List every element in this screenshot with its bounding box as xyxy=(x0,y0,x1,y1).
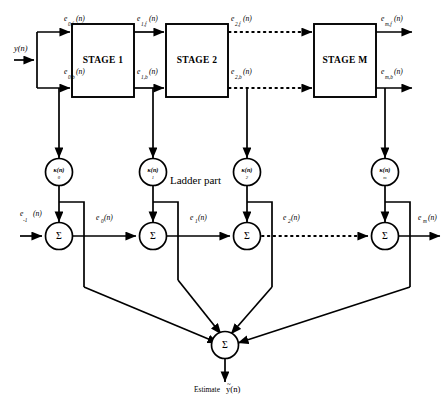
input-signal-label: y(n) xyxy=(13,44,28,53)
sum-1-glyph: Σ xyxy=(150,230,156,241)
label-e1f-arg: (n) xyxy=(149,14,158,23)
kappa-0-label: κ(n) xyxy=(54,166,65,174)
label-em1-arg: (n) xyxy=(33,209,42,218)
kappa-node-0[interactable]: κ(n) 0 xyxy=(46,159,73,186)
label-e2b-arg: (n) xyxy=(243,67,252,76)
label-em-arg: (n) xyxy=(428,213,437,222)
stage-m-box[interactable]: STAGE M xyxy=(314,24,376,97)
kappa-node-m[interactable]: κ(n) m xyxy=(372,159,399,186)
kappa-m-label: κ(n) xyxy=(380,166,391,174)
sum-0-glyph: Σ xyxy=(56,230,62,241)
stage-2-label: STAGE 2 xyxy=(177,55,218,65)
label-e2b-sub: 2,b xyxy=(235,74,242,80)
label-emb-sub: m,b xyxy=(385,74,393,80)
kappa-1-subscript: 1 xyxy=(152,175,154,180)
final-wire-from-2 xyxy=(231,287,272,334)
ladder-part-label: Ladder part xyxy=(170,174,221,186)
lattice-ladder-diagram: STAGE 1 STAGE 2 STAGE M xyxy=(0,0,448,406)
label-e2-arg: (n) xyxy=(291,213,300,222)
summer-node-0[interactable]: Σ xyxy=(46,223,73,250)
label-e0b-sub: 0,b xyxy=(68,74,75,80)
final-wire-from-0 xyxy=(84,287,218,343)
ladder-signal-labels: e (n) -1 e 0 (n) e 1 (n) e 2 (n) e m (n) xyxy=(20,209,437,224)
kappa-node-2[interactable]: κ(n) 2 xyxy=(234,159,261,186)
label-em-base: e xyxy=(418,213,422,222)
kappa-node-1[interactable]: κ(n) 1 xyxy=(140,159,167,186)
estimate-overbar: ~ xyxy=(227,380,231,388)
label-e2-base: e xyxy=(283,213,287,222)
diagram-canvas: STAGE 1 STAGE 2 STAGE M xyxy=(0,0,448,406)
label-e0-base: e xyxy=(96,213,100,222)
estimate-word: Estimate xyxy=(194,385,221,394)
summer-node-2[interactable]: Σ xyxy=(234,223,261,250)
kappa-2-label: κ(n) xyxy=(242,166,253,174)
kappa-1-label: κ(n) xyxy=(148,166,159,174)
sum-final-glyph: Σ xyxy=(222,339,228,350)
label-emf-arg: (n) xyxy=(394,14,403,23)
label-em-sub: m xyxy=(423,218,427,224)
sum-m-glyph: Σ xyxy=(382,230,388,241)
summer-node-final[interactable]: Σ xyxy=(212,332,239,383)
label-e1b-sub: 1,b xyxy=(141,74,148,80)
label-e1b-arg: (n) xyxy=(149,67,158,76)
label-e1-base: e xyxy=(190,213,194,222)
summer-node-m[interactable]: Σ xyxy=(372,223,399,250)
label-em1-sub: -1 xyxy=(23,217,28,223)
final-wire-from-1 xyxy=(178,280,221,334)
stage-2-box[interactable]: STAGE 2 xyxy=(166,24,228,97)
tap-down-wires xyxy=(59,88,385,158)
label-e2f-sub: 2,f xyxy=(235,21,242,27)
label-e1f-sub: 1,f xyxy=(141,21,148,27)
label-e0-arg: (n) xyxy=(104,213,113,222)
label-emf-sub: m,f xyxy=(385,21,393,27)
label-e0b-arg: (n) xyxy=(76,67,85,76)
estimate-output-label: Estimate y(n) ~ xyxy=(194,380,240,394)
input-branch xyxy=(14,32,70,88)
stage-1-box[interactable]: STAGE 1 xyxy=(72,24,134,97)
label-e1-arg: (n) xyxy=(198,213,207,222)
stage-1-label: STAGE 1 xyxy=(83,55,124,65)
sum-2-glyph: Σ xyxy=(244,230,250,241)
summer-node-1[interactable]: Σ xyxy=(140,223,167,250)
final-summation-wires xyxy=(84,280,410,343)
label-e2f-arg: (n) xyxy=(243,14,252,23)
label-emb-arg: (n) xyxy=(394,67,403,76)
label-e0f-arg: (n) xyxy=(76,14,85,23)
stage-m-label: STAGE M xyxy=(323,55,368,65)
